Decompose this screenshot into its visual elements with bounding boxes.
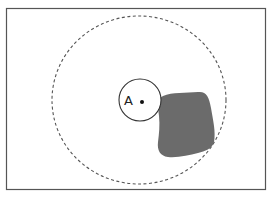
- shaded-region: [158, 92, 215, 157]
- point-label: A: [124, 93, 133, 108]
- point-a-dot: [140, 100, 144, 104]
- diagram-canvas: A: [0, 0, 271, 197]
